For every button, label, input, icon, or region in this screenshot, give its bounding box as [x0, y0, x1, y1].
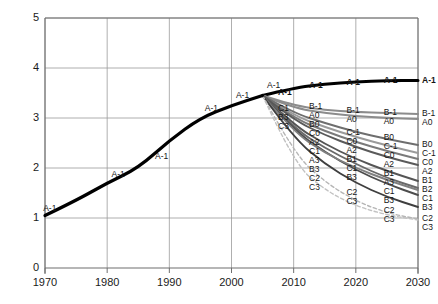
y-tick-4: 4	[21, 61, 39, 73]
series-label-c2-c3: C3	[346, 197, 357, 206]
series-label-c4-b3: B3	[422, 203, 432, 212]
series-label-c0-a1: A-1	[278, 88, 292, 97]
y-tick-3: 3	[21, 111, 39, 123]
series-label-c3-a0: A0	[384, 117, 394, 126]
y-tick-5: 5	[21, 11, 39, 23]
series-label-c2-a0: A0	[346, 115, 356, 124]
x-tick-1980: 1980	[87, 276, 127, 288]
series-label-c4-a1: A-1	[422, 76, 436, 85]
y-tick-2: 2	[21, 161, 39, 173]
series-label-c1-c3: C3	[309, 183, 320, 192]
x-tick-2020: 2020	[336, 276, 376, 288]
series-label-c3-c3: C3	[384, 215, 395, 224]
series-label-c4-a0: A0	[422, 118, 432, 127]
history-label-1: A-1	[112, 170, 125, 179]
series-label-c2-b3: B3	[346, 173, 356, 182]
series-line-history-a1	[45, 96, 263, 216]
x-tick-2010: 2010	[274, 276, 314, 288]
y-tick-1: 1	[21, 211, 39, 223]
series-label-c4-c3: C3	[422, 223, 433, 232]
x-tick-1990: 1990	[149, 276, 189, 288]
history-label-2: A-1	[155, 152, 168, 161]
series-label-c3-a1: A-1	[384, 76, 398, 85]
history-label-3: A-1	[205, 104, 218, 113]
series-label-c1-a1: A-1	[309, 81, 323, 90]
series-label-c2-a1: A-1	[346, 78, 360, 87]
x-tick-2000: 2000	[212, 276, 252, 288]
series-label-c0-c3: C3	[278, 122, 289, 131]
y-tick-0: 0	[21, 261, 39, 273]
x-tick-2030: 2030	[398, 276, 438, 288]
history-label-4: A-1	[236, 91, 249, 100]
history-label-0: A-1	[43, 204, 56, 213]
x-tick-1970: 1970	[25, 276, 65, 288]
series-label-c3-b3: B3	[384, 196, 394, 205]
